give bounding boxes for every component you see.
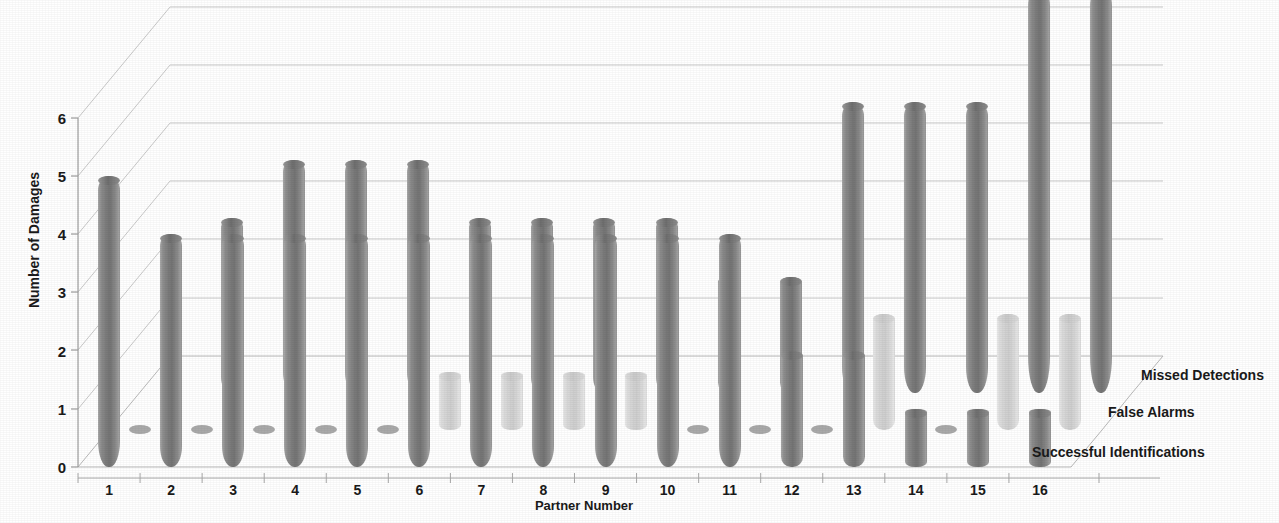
bar-top-cap [563,372,585,381]
bar-top-cap [1029,409,1051,418]
x-tick-label: 15 [958,483,998,497]
bar-footprint [687,425,709,434]
bar-top-cap [1059,314,1081,323]
bar-footprint [191,425,213,434]
bar-body [966,102,988,393]
bar [439,372,461,430]
bar-footprint [811,425,833,434]
bar-top-cap [439,372,461,381]
bar [595,234,617,467]
bar-body [222,234,244,467]
x-tick-label: 2 [151,483,191,497]
bar [346,234,368,467]
bar-top-cap [780,277,802,286]
x-tick-label: 3 [213,483,253,497]
series-label-false-alarms: False Alarms [1108,404,1195,420]
bar [563,372,585,430]
bar-body [98,176,120,467]
bar-top-cap [843,351,865,360]
bar [625,372,647,430]
bar-footprint [129,425,151,434]
x-tick-label: 9 [586,483,626,497]
bar [657,234,679,467]
x-tick-label: 14 [896,483,936,497]
series-label-missed-detections: Missed Detections [1141,367,1264,383]
bar-body [842,102,864,393]
bar [997,314,1019,430]
bar [501,372,523,430]
bar-footprint [749,425,771,434]
series-label-successful-identifications: Successful Identifications [1032,444,1205,460]
bar-body [781,351,803,467]
bar-footprint [377,425,399,434]
bar-body [873,314,895,430]
bar-top-cap [904,102,926,111]
bar-top-cap [905,409,927,418]
x-tick-label: 5 [337,483,377,497]
bar-top-cap [595,234,617,243]
y-tick-label: 2 [18,344,66,359]
x-tick-label: 11 [710,483,750,497]
y-tick-label: 6 [18,111,66,126]
bar [408,234,430,467]
bar-body [284,234,306,467]
bar-top-cap [966,102,988,111]
x-tick-label: 12 [772,483,812,497]
bar-body [997,314,1019,430]
x-tick-label: 7 [461,483,501,497]
bar-body [904,102,926,393]
bar-top-cap [873,314,895,323]
x-tick-label: 8 [523,483,563,497]
bar-top-cap [781,351,803,360]
x-tick-label: 16 [1020,483,1060,497]
bar [842,102,864,393]
bar-body [1059,314,1081,430]
bar-body [719,234,741,467]
bar [905,409,927,467]
bar-body [595,234,617,467]
bar-top-cap [625,372,647,381]
bar-body [470,234,492,467]
bar-top-cap [501,372,523,381]
y-tick-label: 0 [18,460,66,475]
bar [470,234,492,467]
bar [781,351,803,467]
bar-footprint [253,425,275,434]
chart-3d-damages: 0123456 12345678910111213141516 Number o… [0,0,1279,523]
bar-footprint [935,425,957,434]
bar [904,102,926,393]
bar-top-cap [967,409,989,418]
bar [843,351,865,467]
bar-top-cap [657,234,679,243]
y-axis-title: Number of Damages [26,160,42,320]
bar-body [657,234,679,467]
x-tick-label: 10 [648,483,688,497]
bar-footprint [315,425,337,434]
bar [1028,0,1050,393]
bar-top-cap [842,102,864,111]
x-tick-label: 13 [834,483,874,497]
bar-body [1090,0,1112,393]
bar [160,234,182,467]
bar-top-cap [98,176,120,185]
bar [873,314,895,430]
bar-body [1028,0,1050,393]
bar [967,409,989,467]
bar-body [160,234,182,467]
x-tick-label: 1 [89,483,129,497]
bar [222,234,244,467]
bar [1059,314,1081,430]
bar-body [408,234,430,467]
bar [532,234,554,467]
bar-top-cap [719,234,741,243]
bar-body [346,234,368,467]
bar [719,234,741,467]
bar-body [843,351,865,467]
x-axis-title: Partner Number [474,498,694,513]
bar-top-cap [997,314,1019,323]
bar [284,234,306,467]
x-tick-label: 6 [399,483,439,497]
bar [98,176,120,467]
bar [1090,0,1112,393]
y-tick-label: 1 [18,402,66,417]
